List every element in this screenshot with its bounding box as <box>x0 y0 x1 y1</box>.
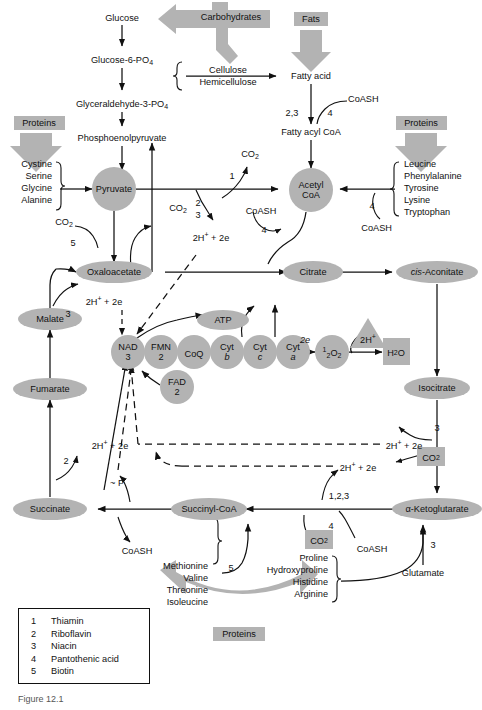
input-proteins-bottom: Proteins <box>222 629 256 640</box>
node-atp: ATP <box>198 310 248 330</box>
cyt-a-subtype: a <box>290 352 295 362</box>
node-fumarate: Fumarate <box>13 378 87 400</box>
label-coash-aa: CoASH <box>361 223 392 234</box>
label-reducing-equivalents-malate: 2H+ + 2e <box>86 293 123 308</box>
legend-number: 4 <box>31 653 51 666</box>
node-succinyl-coa: Succinyl-CoA <box>171 498 247 520</box>
enzyme-number-pyruvate-carboxylase: 5 <box>70 238 75 248</box>
label-coash-alphakg: CoASH <box>357 544 388 555</box>
enzyme-number-isocitrate-dh: 3 <box>434 423 439 433</box>
node-phosphoenolpyruvate: Phosphoenolpyruvate <box>78 133 167 144</box>
amino-acid-tyrosine: Tyrosine <box>404 183 439 194</box>
label-two-electrons: 2e <box>300 335 310 346</box>
legend-label: Riboflavin <box>51 628 119 641</box>
enzyme-number-aa-to-acetyl: 4 <box>369 201 374 211</box>
cyt-b-subtype: b <box>224 352 229 362</box>
node-cyt-c: Cyt c <box>243 335 277 369</box>
node-alpha-ketoglutarate: α-Ketoglutarate <box>392 498 482 520</box>
node-coq: CoQ <box>177 337 211 371</box>
fmn-label: FMN <box>151 342 171 352</box>
node-fatty-acid: Fatty acid <box>291 71 331 82</box>
amino-acid-arginine: Arginine <box>294 589 328 600</box>
node-fmn: FMN 2 <box>144 335 178 369</box>
figure-caption: Figure 12.1 <box>18 694 64 704</box>
amino-acid-leucine: Leucine <box>404 159 436 170</box>
node-pyruvate: Pyruvate <box>92 167 136 211</box>
legend-row: 5 Biotin <box>31 665 119 678</box>
input-proteins-right: Proteins <box>404 118 438 129</box>
enzyme-number-succinate-dh: 2 <box>63 456 68 466</box>
cyt-a-label: Cyt <box>286 342 300 352</box>
enzyme-number-thiokinase: 4 <box>327 108 332 118</box>
node-water: H2O <box>383 339 410 366</box>
enzyme-number-glutamate-dh: 3 <box>430 540 435 550</box>
node-fatty-acyl-coa: Fatty acyl CoA <box>281 127 341 138</box>
node-fad: FAD 2 <box>160 370 194 404</box>
amino-acid-isoleucine: Isoleucine <box>167 597 208 608</box>
enzyme-number-alphakg-dh: 1,2,3 <box>329 491 349 501</box>
amino-acid-lysine: Lysine <box>404 195 430 206</box>
label-reducing-equivalents-pyruvate: 2H+ + 2e <box>193 229 230 244</box>
node-isocitrate: Isocitrate <box>404 377 470 399</box>
legend-row: 4 Pantothenic acid <box>31 653 119 666</box>
enzyme-number-pyr-b: 3 <box>195 210 200 220</box>
legend-table: 1 Thiamin 2 Riboflavin 3 Niacin 4 Pantot… <box>31 615 119 678</box>
legend-label: Pantothenic acid <box>51 653 119 666</box>
cyt-c-subtype: c <box>258 352 263 362</box>
enzyme-number-aa-to-succinyl: 5 <box>228 563 233 573</box>
oxygen-sub: 2 <box>338 352 342 359</box>
label-co2-isocitrate: CO2 <box>417 448 445 467</box>
legend-row: 2 Riboflavin <box>31 628 119 641</box>
node-glutamate: Glutamate <box>402 568 444 579</box>
label-reducing-equivalents-alphakg: 2H+ + 2e <box>340 459 377 474</box>
amino-acid-hydroxyproline: Hydroxyproline <box>267 565 328 576</box>
label-protons-triangle: 2H+ <box>360 331 376 346</box>
node-malate: Malate <box>18 308 82 330</box>
fad-vitamin-number: 2 <box>174 387 179 397</box>
amino-acid-cystine: Cystine <box>21 159 52 170</box>
nad-label: NAD <box>118 342 137 352</box>
nad-vitamin-number: 3 <box>125 352 130 362</box>
label-coash-succinate: CoASH <box>122 546 153 557</box>
node-glucose-6-phosphate: Glucose-6-PO4 <box>91 55 153 68</box>
node-acetyl-coa: Acetyl CoA <box>289 168 333 212</box>
input-fats: Fats <box>302 14 320 25</box>
enzyme-number-pdh: 1 <box>229 171 234 181</box>
node-oxaloacetate: Oxaloacetate <box>76 261 152 283</box>
cyt-c-label: Cyt <box>253 342 267 352</box>
legend-number: 2 <box>31 628 51 641</box>
enzyme-number-malate-dh: 3 <box>65 309 70 319</box>
node-glucose: Glucose <box>105 13 139 24</box>
node-glyceraldehyde-3-phosphate: Glyceraldehyde-3-PO4 <box>76 99 168 112</box>
enzyme-number-beta-oxidation: 2,3 <box>286 108 299 118</box>
amino-acid-alanine: Alanine <box>21 195 52 206</box>
cyt-b-label: Cyt <box>220 342 234 352</box>
amino-acid-glycine: Glycine <box>21 183 52 194</box>
legend-label: Niacin <box>51 640 119 653</box>
amino-acid-tryptophan: Tryptophan <box>404 207 450 218</box>
enzyme-number-acetyl-coash: 4 <box>261 225 266 235</box>
enzyme-number-pyr-a: 2 <box>195 198 200 208</box>
amino-acid-valine: Valine <box>183 573 208 584</box>
legend-number: 1 <box>31 615 51 628</box>
amino-acid-threonine: Threonine <box>167 585 208 596</box>
label-reducing-equivalents-succinate: 2H+ + 2e <box>92 437 129 452</box>
input-proteins-left: Proteins <box>22 118 56 129</box>
acetyl-coa-line2: CoA <box>302 190 320 200</box>
label-co2-alphakg: CO2 <box>305 531 333 550</box>
fiber-cellulose: Cellulose <box>209 65 247 76</box>
legend-label: Thiamin <box>51 615 119 628</box>
label-coash-acetyl: CoASH <box>246 206 277 217</box>
legend-row: 3 Niacin <box>31 640 119 653</box>
amino-acid-serine: Serine <box>25 171 52 182</box>
fiber-hemicellulose: Hemicellulose <box>199 77 256 88</box>
amino-acid-methionine: Methionine <box>163 561 208 572</box>
amino-acid-histidine: Histidine <box>293 577 328 588</box>
label-coash-fat: CoASH <box>348 94 379 105</box>
figure-canvas: Carbohydrates Fats Proteins Proteins Pro… <box>0 0 482 710</box>
node-citrate: Citrate <box>283 261 343 283</box>
node-nad: NAD 3 <box>111 335 145 369</box>
label-co2-pdh: CO2 <box>241 149 259 162</box>
amino-acid-proline: Proline <box>299 553 328 564</box>
legend-number: 5 <box>31 665 51 678</box>
